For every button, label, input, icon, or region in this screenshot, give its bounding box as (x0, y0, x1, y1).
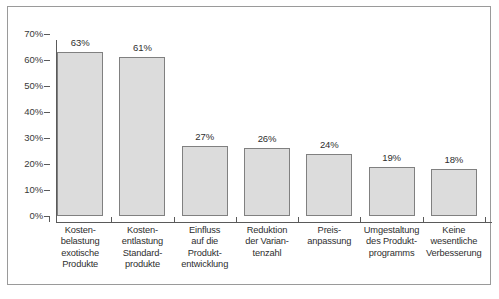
x-axis-category-label: Umgestaltung des Produkt- programms (361, 225, 421, 259)
x-axis-tick-mark (298, 217, 299, 222)
y-axis-tick-label: 70% (0, 29, 43, 39)
y-axis-tick-mark (44, 164, 50, 165)
bar-value-label: 27% (175, 132, 235, 142)
x-axis-category-label: Einfluss auf die Produkt- entwicklung (175, 225, 235, 271)
bar (182, 146, 228, 216)
y-axis-tick-label: 10% (0, 185, 43, 195)
y-axis-tick-label: 30% (0, 133, 43, 143)
y-axis-tick-label: 50% (0, 81, 43, 91)
bar (244, 148, 290, 216)
bar-value-label: 24% (299, 140, 359, 150)
y-axis-tick-mark (44, 190, 50, 191)
bar (431, 169, 477, 216)
x-axis-category-label: Preis- anpassung (299, 225, 359, 248)
x-axis-category-label: Kosten- entlastung Standard- produkte (112, 225, 172, 271)
bar (306, 154, 352, 216)
y-axis-tick-mark (44, 86, 50, 87)
x-axis-category-label: Kosten- belastung exotische Produkte (50, 225, 110, 271)
x-axis-tick-mark (111, 217, 112, 222)
y-axis-tick-label: 40% (0, 107, 43, 117)
x-axis-tick-mark (485, 217, 486, 222)
bar-value-label: 61% (112, 43, 172, 53)
y-axis-tick-label: 60% (0, 55, 43, 65)
chart-screenshot: 0%10%20%30%40%50%60%70% 63%61%27%26%24%1… (0, 0, 499, 299)
bar (57, 52, 103, 216)
y-axis-tick-label: 0% (0, 211, 43, 221)
bar-value-label: 26% (237, 134, 297, 144)
x-axis-tick-mark (423, 217, 424, 222)
x-axis-tick-mark (174, 217, 175, 222)
x-axis-tick-mark (360, 217, 361, 222)
x-axis-category-label: Keine wesentliche Verbesserung (424, 225, 484, 259)
y-axis-tick-label: 20% (0, 159, 43, 169)
bar-value-label: 19% (362, 153, 422, 163)
y-axis-tick-mark (44, 138, 50, 139)
x-axis-tick-mark (49, 217, 50, 222)
y-axis-tick-mark (44, 112, 50, 113)
y-axis-tick-mark (44, 34, 50, 35)
figure-frame: 0%10%20%30%40%50%60%70% 63%61%27%26%24%1… (7, 6, 491, 285)
bar (369, 167, 415, 216)
bar-value-label: 63% (50, 38, 110, 48)
bar-value-label: 18% (424, 155, 484, 165)
x-axis-line (56, 222, 492, 223)
y-axis-tick-mark (44, 60, 50, 61)
bar (119, 57, 165, 216)
x-axis-category-label: Reduktion der Varian- tenzahl (237, 225, 297, 259)
x-axis-tick-mark (236, 217, 237, 222)
